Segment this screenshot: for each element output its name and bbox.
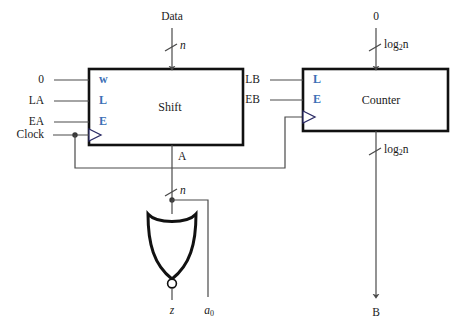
input-label-lb: LB (245, 74, 260, 86)
data-bus-slash (165, 44, 177, 51)
a0-subscript: 0 (210, 309, 214, 318)
nor-gate-body (148, 214, 196, 279)
z-output-label: z (170, 305, 174, 317)
counter-block-label: Counter (362, 94, 401, 106)
data-label: Data (161, 11, 183, 23)
bus-b-label: B (372, 307, 380, 319)
log-arg: n (403, 38, 409, 50)
input-label-ea: EA (29, 116, 44, 128)
shift-pin-label-e: E (99, 115, 107, 127)
a0-output-label: a0 (204, 305, 214, 318)
counter-input-width-label: log2n (384, 39, 408, 52)
counter-input-slash (369, 44, 381, 51)
bus-a-slash (165, 189, 177, 196)
input-label-la: LA (29, 95, 44, 107)
bus-b-slash (369, 148, 381, 155)
nor-gate-bubble (168, 279, 177, 288)
counter-pin-label-e: E (313, 93, 321, 105)
input-label-clock: Clock (17, 129, 44, 141)
shift-block-label: Shift (158, 101, 181, 113)
shift-pin-label-w: w (99, 73, 108, 85)
log-base-text-2: log (384, 143, 399, 155)
bus-b-width-label: log2n (384, 144, 408, 157)
data-width-label: n (180, 40, 186, 52)
shift-pin-label-l: L (99, 94, 107, 106)
log-base-text: log (384, 38, 399, 50)
counter-pin-label-l: L (313, 73, 321, 85)
circuit-diagram: Data n 0 LA EA Clock w L E Shift A n z a… (0, 0, 474, 333)
bus-a-width-label: n (180, 185, 186, 197)
counter-zero-label: 0 (373, 11, 379, 23)
input-label-eb: EB (245, 94, 260, 106)
input-label-zero: 0 (38, 74, 44, 86)
log-arg-2: n (403, 143, 409, 155)
bus-a-label: A (178, 151, 186, 163)
